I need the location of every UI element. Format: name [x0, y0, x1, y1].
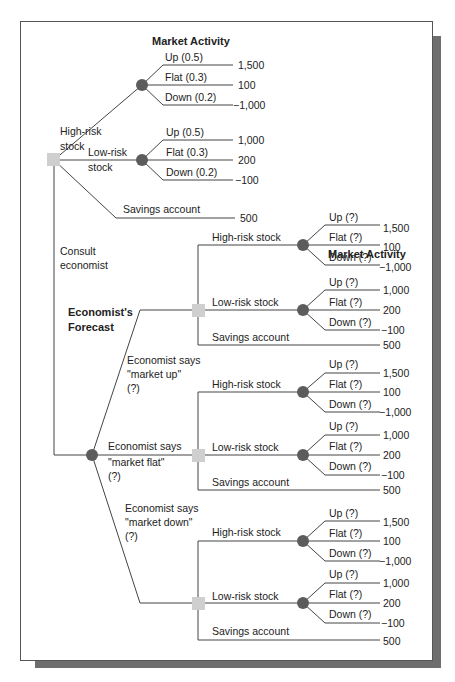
- payoff-value: 500: [383, 635, 401, 647]
- payoff-value: 1,500: [383, 367, 409, 379]
- low-risk-label-line1: Low-risk: [88, 146, 128, 158]
- payoff-value: −1,000: [233, 99, 266, 111]
- payoff-value: 200: [383, 449, 401, 461]
- payoff-value: −100: [381, 469, 405, 481]
- outcome-label: Down (?): [329, 547, 372, 559]
- outcome-label: Flat (?): [329, 588, 362, 600]
- payoff-value: 1,500: [383, 222, 409, 234]
- outcome-label: Up (?): [329, 211, 358, 223]
- low-risk-label: Low-risk stock: [212, 441, 279, 453]
- outcome-label: Down (?): [329, 251, 372, 263]
- payoff-value: 500: [383, 339, 401, 351]
- chance-node: [297, 304, 309, 316]
- forecast-flat-line1: Economist says: [108, 440, 182, 452]
- outcome-label: Down (?): [329, 398, 372, 410]
- consult-economist-line2: economist: [60, 259, 108, 271]
- payoff-value: 1,000: [238, 134, 264, 146]
- outcome-label: Up (?): [329, 276, 358, 288]
- outcome-label: Up (0.5): [165, 51, 203, 63]
- chance-node-high-risk-top: [136, 79, 148, 91]
- payoff-value: 1,500: [238, 59, 264, 71]
- decision-node: [192, 304, 205, 317]
- forecast-flat-line2: "market flat": [108, 456, 165, 468]
- outcome-label: Down (?): [329, 608, 372, 620]
- high-risk-label-line2: stock: [60, 140, 85, 152]
- chance-node: [297, 386, 309, 398]
- payoff-value: 100: [383, 241, 401, 253]
- outcome-label: Flat (?): [329, 378, 362, 390]
- forecast-flat-line3: (?): [108, 470, 121, 482]
- outcome-label: Down (?): [329, 460, 372, 472]
- savings-label: Savings account: [212, 625, 289, 637]
- payoff-value: −1,000: [379, 261, 412, 273]
- outcome-label: Up (?): [329, 420, 358, 432]
- root-decision-node: [47, 153, 60, 166]
- outcome-label: Up (?): [329, 507, 358, 519]
- payoff-value: 100: [383, 535, 401, 547]
- high-risk-label: High-risk stock: [212, 378, 282, 390]
- payoff-value: 1,000: [383, 577, 409, 589]
- payoff-value: 100: [383, 386, 401, 398]
- low-risk-label: Low-risk stock: [212, 590, 279, 602]
- decision-node: [192, 449, 205, 462]
- payoff-value: −100: [235, 174, 259, 186]
- market-activity-header-top: Market Activity: [152, 35, 231, 47]
- payoff-value: 1,500: [383, 516, 409, 528]
- payoff-value: 1,000: [383, 284, 409, 296]
- forecast-down-line1: Economist says: [125, 502, 199, 514]
- subtree-market-up: High-risk stock Low-risk stock Savings a…: [192, 211, 412, 351]
- payoff-value: 1,000: [383, 429, 409, 441]
- high-risk-label-line1: High-risk: [60, 125, 102, 137]
- high-risk-label: High-risk stock: [212, 231, 282, 243]
- payoff-value: 200: [383, 304, 401, 316]
- economists-forecast-line2: Forecast: [68, 321, 114, 333]
- payoff-value: −1,000: [379, 406, 412, 418]
- payoff-value: 200: [383, 597, 401, 609]
- savings-value-top: 500: [240, 212, 258, 224]
- savings-label: Savings account: [212, 476, 289, 488]
- forecast-up-line3: (?): [127, 382, 140, 394]
- outcome-label: Flat (?): [329, 440, 362, 452]
- subtree-market-down: High-risk stock Low-risk stock Savings a…: [192, 507, 412, 647]
- outcome-label: Up (?): [329, 568, 358, 580]
- payoff-value: −100: [381, 617, 405, 629]
- chance-node: [297, 449, 309, 461]
- low-risk-label: Low-risk stock: [212, 296, 279, 308]
- outcome-label: Flat (0.3): [166, 146, 208, 158]
- savings-label: Savings account: [212, 331, 289, 343]
- payoff-value: −100: [381, 324, 405, 336]
- forecast-down-line2: "market down": [125, 516, 193, 528]
- chance-node-low-risk-top: [136, 154, 148, 166]
- subtree-market-flat: High-risk stock Low-risk stock Savings a…: [192, 358, 412, 496]
- outcome-label: Flat (?): [329, 527, 362, 539]
- outcome-label: Flat (0.3): [165, 71, 207, 83]
- chance-node: [297, 239, 309, 251]
- high-risk-label: High-risk stock: [212, 526, 282, 538]
- low-risk-label-line2: stock: [88, 161, 113, 173]
- payoff-value: −1,000: [379, 555, 412, 567]
- chance-node: [297, 535, 309, 547]
- outcome-label: Flat (?): [329, 296, 362, 308]
- forecast-chance-node: [86, 449, 98, 461]
- payoff-value: 500: [383, 484, 401, 496]
- decision-node: [192, 597, 205, 610]
- consult-economist-line1: Consult: [60, 245, 96, 257]
- outcome-label: Up (?): [329, 358, 358, 370]
- forecast-down-line3: (?): [125, 530, 138, 542]
- forecast-up-line1: Economist says: [127, 354, 201, 366]
- outcome-label: Down (0.2): [165, 91, 216, 103]
- forecast-up-line2: "market up": [127, 368, 181, 380]
- outcome-label: Down (?): [329, 316, 372, 328]
- outcome-label: Down (0.2): [166, 166, 217, 178]
- savings-label-top: Savings account: [123, 203, 200, 215]
- payoff-value: 200: [238, 154, 256, 166]
- economists-forecast-line1: Economist's: [68, 306, 133, 318]
- payoff-value: 100: [238, 79, 256, 91]
- chance-node: [297, 597, 309, 609]
- decision-tree: Market Activity High-risk stock Low-risk…: [0, 0, 455, 682]
- outcome-label: Flat (?): [329, 231, 362, 243]
- outcome-label: Up (0.5): [166, 126, 204, 138]
